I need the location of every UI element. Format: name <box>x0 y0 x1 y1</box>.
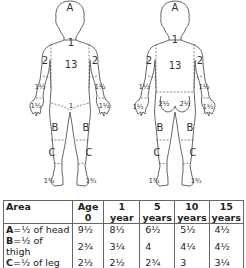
front-trunk-label: 13 <box>65 60 78 70</box>
table-row: A=½ of head 9½ 8½ 6½ 5½ 4½ <box>4 224 244 236</box>
cell-value: 9½ <box>72 224 104 236</box>
front-foot-right-label: 1¾ <box>85 178 96 185</box>
cell-value: 3¼ <box>209 257 243 268</box>
body-diagrams: A 1 13 2 2 1½ 1½ 1½ 1½ 1 B B C C 1¾ 1¾ A… <box>0 0 246 200</box>
cell-value: 4½ <box>209 235 243 257</box>
back-leg-left-label: C <box>154 148 161 158</box>
row-area-label: B=½ of thigh <box>4 235 73 257</box>
cell-value: 4½ <box>209 224 243 236</box>
cell-value: 4 <box>140 235 175 257</box>
back-hand-left-label: 1½ <box>132 104 143 111</box>
back-hand-right-label: 1½ <box>202 104 213 111</box>
header-age-10: 10years <box>175 201 209 224</box>
header-age-15: 15years <box>209 201 243 224</box>
cell-value: 3 <box>175 257 209 268</box>
back-foot-left-label: 1¾ <box>148 178 159 185</box>
body-outline-drawing <box>0 0 246 200</box>
front-hand-left-label: 1½ <box>30 103 41 110</box>
cell-value: 4¼ <box>175 235 209 257</box>
back-thigh-left-label: B <box>157 123 164 133</box>
back-buttock-right-label: 2½ <box>179 101 190 108</box>
row-area-label: C=½ of leg <box>4 257 73 268</box>
header-age-0: Age0 <box>72 201 104 224</box>
back-upper-arm-left-label: 2 <box>146 56 152 66</box>
cell-value: 6½ <box>140 224 175 236</box>
front-neck-label: 1 <box>68 38 74 48</box>
back-trunk-label: 13 <box>169 61 182 71</box>
cell-value: 2½ <box>104 257 140 268</box>
header-area: Area <box>4 201 73 224</box>
back-thigh-right-label: B <box>187 123 194 133</box>
front-figure-outline <box>30 1 110 186</box>
header-age-1: 1year <box>104 201 140 224</box>
header-age-5: 5years <box>140 201 175 224</box>
cell-value: 2¾ <box>140 257 175 268</box>
front-genitals-label: 1 <box>69 103 73 110</box>
cell-value: 8½ <box>104 224 140 236</box>
back-forearm-right-label: 1½ <box>198 84 209 91</box>
age-percentage-table: Area Age0 1year 5years 10years 15years A… <box>3 200 244 268</box>
cell-value: 5½ <box>175 224 209 236</box>
back-head-label: A <box>172 3 179 13</box>
front-thigh-right-label: B <box>83 123 90 133</box>
front-leg-right-label: C <box>86 148 93 158</box>
front-forearm-right-label: 1½ <box>94 84 105 91</box>
table-header-row: Area Age0 1year 5years 10years 15years <box>4 201 244 224</box>
back-upper-arm-right-label: 2 <box>197 56 203 66</box>
back-forearm-left-label: 1½ <box>138 84 149 91</box>
front-upper-arm-right-label: 2 <box>92 56 98 66</box>
cell-value: 2¾ <box>72 235 104 257</box>
front-hand-right-label: 1½ <box>98 103 109 110</box>
front-upper-arm-left-label: 2 <box>42 56 48 66</box>
back-buttock-left-label: 2½ <box>158 101 169 108</box>
back-neck-label: 1 <box>172 35 178 45</box>
back-leg-right-label: C <box>190 148 197 158</box>
table-row: B=½ of thigh 2¾ 3¼ 4 4¼ 4½ <box>4 235 244 257</box>
front-leg-left-label: C <box>49 148 56 158</box>
front-thigh-left-label: B <box>52 123 59 133</box>
table-row: C=½ of leg 2½ 2½ 2¾ 3 3¼ <box>4 257 244 268</box>
row-area-label: A=½ of head <box>4 224 73 236</box>
cell-value: 2½ <box>72 257 104 268</box>
front-forearm-left-label: 1½ <box>34 84 45 91</box>
cell-value: 3¼ <box>104 235 140 257</box>
front-head-label: A <box>67 3 74 13</box>
front-foot-left-label: 1¾ <box>43 178 54 185</box>
back-foot-right-label: 1¾ <box>190 178 201 185</box>
back-figure-outline <box>135 1 215 186</box>
